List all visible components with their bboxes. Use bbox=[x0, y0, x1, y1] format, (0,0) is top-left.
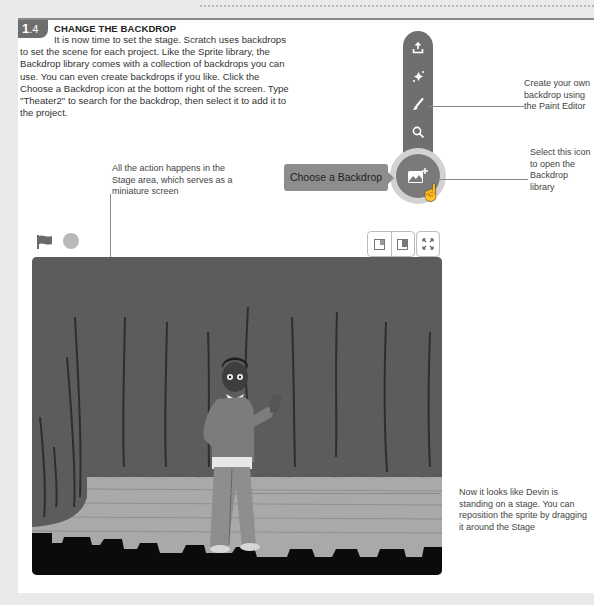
large-stage-button[interactable] bbox=[391, 232, 415, 256]
theater-backdrop bbox=[32, 257, 442, 575]
surprise-icon[interactable] bbox=[403, 65, 433, 87]
green-flag-icon[interactable] bbox=[36, 234, 54, 254]
paint-icon[interactable] bbox=[403, 93, 433, 115]
stage-header bbox=[30, 228, 442, 258]
search-icon[interactable] bbox=[403, 121, 433, 143]
step-title: CHANGE THE BACKDROP bbox=[54, 23, 176, 34]
stop-icon[interactable] bbox=[63, 233, 79, 249]
choose-backdrop-tooltip: Choose a Backdrop bbox=[284, 164, 388, 191]
select-leader-line bbox=[436, 179, 528, 180]
stage-canvas[interactable] bbox=[32, 257, 442, 575]
sprite-leader-line bbox=[222, 493, 440, 494]
fullscreen-button[interactable] bbox=[416, 231, 440, 257]
paint-callout: Create your own backdrop using the Paint… bbox=[524, 78, 594, 113]
stage-size-toggle bbox=[367, 231, 415, 257]
select-callout: Select this icon to open the Backdrop li… bbox=[530, 147, 594, 193]
paint-leader-line bbox=[428, 106, 524, 107]
small-stage-button[interactable] bbox=[368, 232, 391, 256]
stage-callout: All the action happens in the Stage area… bbox=[112, 163, 236, 198]
top-dotted-rule bbox=[200, 5, 594, 7]
step-body: It is now time to set the stage. Scratch… bbox=[20, 34, 290, 119]
hand-cursor-icon: ☝ bbox=[421, 183, 441, 202]
upload-icon[interactable] bbox=[403, 37, 433, 59]
fullscreen-icon bbox=[422, 238, 434, 250]
sprite-callout: Now it looks like Devin is standing on a… bbox=[459, 487, 591, 533]
